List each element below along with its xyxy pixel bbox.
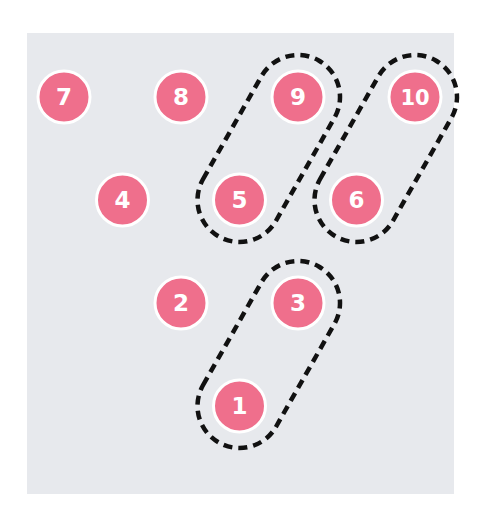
node-3: 3 — [272, 277, 324, 329]
node-label: 1 — [231, 393, 247, 419]
node-label: 2 — [173, 290, 189, 316]
node-label: 10 — [400, 86, 429, 110]
node-label: 9 — [290, 84, 306, 110]
node-5: 5 — [214, 174, 266, 226]
node-label: 4 — [114, 187, 130, 213]
node-6: 6 — [331, 174, 383, 226]
node-label: 8 — [173, 84, 189, 110]
node-9: 9 — [272, 71, 324, 123]
node-1: 1 — [214, 380, 266, 432]
group-6-10-outline — [299, 40, 472, 258]
node-10: 10 — [389, 71, 441, 123]
group-1-3-outline — [182, 246, 355, 464]
node-7: 7 — [38, 71, 90, 123]
diagram-canvas: 12345678910 — [0, 0, 481, 518]
node-2: 2 — [155, 277, 207, 329]
node-label: 5 — [231, 187, 247, 213]
node-4: 4 — [97, 174, 149, 226]
nodes-layer: 12345678910 — [38, 71, 441, 432]
node-label: 3 — [290, 290, 306, 316]
node-label: 6 — [348, 187, 364, 213]
node-label: 7 — [56, 84, 72, 110]
group-5-9-outline — [182, 40, 355, 258]
node-8: 8 — [155, 71, 207, 123]
